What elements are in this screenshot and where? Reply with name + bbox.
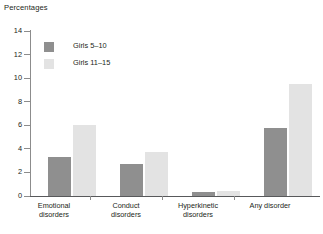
y-axis-tick: [24, 196, 30, 197]
x-axis-category-label: Emotionaldisorders: [18, 201, 90, 219]
bar-group: [192, 31, 240, 196]
x-axis-category-label-line: disorders: [90, 210, 162, 219]
y-axis-tick: [24, 148, 30, 149]
bar-girls-5-10: [120, 164, 143, 196]
bar-group: [48, 31, 96, 196]
y-axis-tick-label: 12: [0, 51, 22, 59]
x-axis-tick: [162, 196, 163, 200]
x-axis-category-label-line: disorders: [18, 210, 90, 219]
x-axis-line: [24, 196, 320, 197]
y-axis-tick-label: 4: [0, 145, 22, 153]
bar-girls-5-10: [48, 157, 71, 196]
x-axis-category-label-line: Any disorder: [234, 201, 306, 210]
y-axis-tick-label: 14: [0, 27, 22, 35]
y-axis-tick: [24, 172, 30, 173]
y-axis-tick: [24, 54, 30, 55]
x-axis-tick: [234, 196, 235, 200]
x-axis-tick: [90, 196, 91, 200]
bar-girls-5-10: [192, 192, 215, 196]
x-axis-category-label: Conductdisorders: [90, 201, 162, 219]
bar-girls-11-15: [145, 152, 168, 196]
y-axis-tick-label: 2: [0, 168, 22, 176]
y-axis-tick-label: 0: [0, 192, 22, 200]
y-axis-tick: [24, 125, 30, 126]
bar-girls-11-15: [217, 191, 240, 196]
bar-girls-5-10: [264, 128, 287, 196]
y-axis-tick-label: 8: [0, 98, 22, 106]
bar-girls-11-15: [73, 125, 96, 196]
bar-group: [264, 31, 312, 196]
y-axis-tick: [24, 78, 30, 79]
x-axis-category-label-line: Conduct: [90, 201, 162, 210]
bar-girls-11-15: [289, 84, 312, 196]
x-axis-category-label: Any disorder: [234, 201, 306, 210]
x-axis-category-label: Hyperkineticdisorders: [162, 201, 234, 219]
x-axis-category-label-line: disorders: [162, 210, 234, 219]
bar-group: [120, 31, 168, 196]
y-axis-labels: 02468101214: [0, 0, 22, 234]
y-axis-tick-label: 6: [0, 121, 22, 129]
bar-chart: Percentages 02468101214 Girls 5–10 Girls…: [0, 0, 323, 234]
y-axis-tick-label: 10: [0, 74, 22, 82]
y-axis-tick: [24, 101, 30, 102]
y-axis-tick: [24, 31, 30, 32]
x-axis-category-label-line: Emotional: [18, 201, 90, 210]
x-axis-category-label-line: Hyperkinetic: [162, 201, 234, 210]
